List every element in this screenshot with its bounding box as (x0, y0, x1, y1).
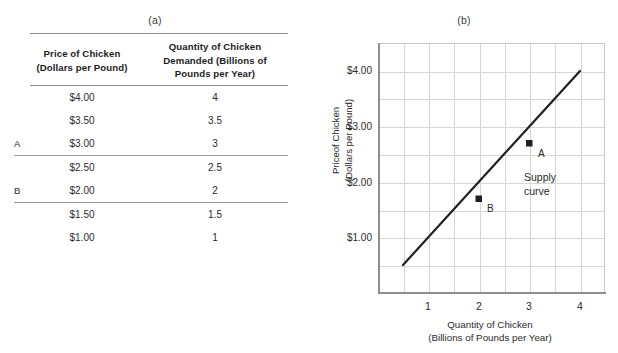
table-row: $2.50 2.5 (0, 162, 310, 178)
panel-a-table: (a) Price of Chicken (Dollars per Pound)… (0, 0, 310, 353)
y-axis-title-line1: Priceof Chicken (330, 61, 343, 221)
row-price: $3.50 (22, 115, 142, 126)
supply-curve-svg (378, 43, 605, 293)
table-rule-top (30, 33, 288, 34)
column-header-price: Price of Chicken (Dollars per Pound) (22, 47, 142, 74)
supply-curve-annotation: Supply curve (524, 170, 594, 198)
table-row-b: B $2.00 2 (0, 185, 310, 201)
row-quantity: 1.5 (150, 209, 280, 220)
column-header-quantity: Quantity of Chicken Demanded (Billions o… (150, 40, 280, 81)
table-row: $1.50 1.5 (0, 209, 310, 225)
panel-b-chart: (b) $4.00 $3.00 $2.00 $1.00 1 2 3 4 Pric… (310, 0, 618, 353)
column-header-price-line2: (Dollars per Pound) (22, 61, 142, 75)
supply-curve-annotation-line1: Supply (524, 170, 594, 184)
data-point-a-marker (526, 140, 533, 147)
table-rule-under-a (14, 155, 288, 156)
row-price: $2.00 (22, 185, 142, 196)
table-row: $3.50 3.5 (0, 115, 310, 131)
panel-a-caption: (a) (0, 14, 310, 26)
supply-curve-annotation-line2: curve (524, 184, 594, 198)
row-price: $3.00 (22, 138, 142, 149)
table-rule-header (30, 85, 288, 86)
table-row: $4.00 4 (0, 92, 310, 108)
column-header-quantity-line1: Quantity of Chicken (150, 40, 280, 54)
row-price: $1.00 (22, 232, 142, 243)
data-point-a-label: A (538, 148, 545, 159)
row-price: $2.50 (22, 162, 142, 173)
x-axis-title: Quantity of Chicken (Billions of Pounds … (370, 318, 610, 344)
row-quantity: 1 (150, 232, 280, 243)
column-header-quantity-line3: Pounds per Year) (150, 67, 280, 81)
x-tick-label: 4 (565, 300, 595, 312)
x-axis-title-line1: Quantity of Chicken (370, 318, 610, 331)
table-row-a: A $3.00 3 (0, 138, 310, 154)
column-header-price-line1: Price of Chicken (22, 47, 142, 61)
supply-curve-line (403, 71, 580, 265)
row-price: $4.00 (22, 92, 142, 103)
table-row: $1.00 1 (0, 232, 310, 248)
x-tick-label: 3 (514, 300, 544, 312)
column-header-quantity-line2: Demanded (Billions of (150, 54, 280, 68)
y-axis-title-line2: (Dollars per Pound) (342, 61, 355, 221)
x-tick-label: 1 (413, 300, 443, 312)
row-price: $1.50 (22, 209, 142, 220)
data-point-b-label: B (487, 203, 494, 214)
y-tick-label: $1.00 (326, 232, 372, 243)
y-axis-title: Priceof Chicken (Dollars per Pound) (330, 61, 355, 221)
row-quantity: 2 (150, 185, 280, 196)
row-quantity: 4 (150, 92, 280, 103)
panel-b-caption: (b) (310, 14, 618, 26)
x-axis-title-line2: (Billions of Pounds per Year) (370, 331, 610, 344)
row-quantity: 3 (150, 138, 280, 149)
data-point-b-marker (476, 196, 483, 203)
x-tick-label: 2 (464, 300, 494, 312)
table-rule-under-b (14, 202, 288, 203)
row-quantity: 2.5 (150, 162, 280, 173)
row-quantity: 3.5 (150, 115, 280, 126)
